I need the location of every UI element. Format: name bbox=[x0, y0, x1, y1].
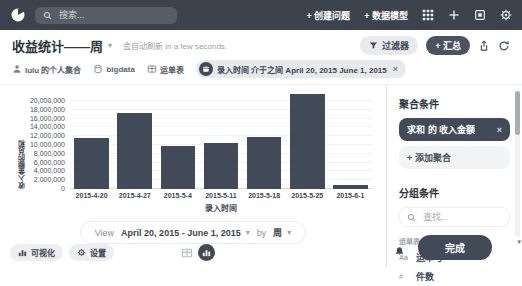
view-bar: View April 20, 2015 - June 1, 2015 ▾ by … bbox=[0, 221, 386, 244]
view-label: View bbox=[95, 228, 114, 238]
apps-grid-icon[interactable] bbox=[422, 9, 434, 21]
bar-rect bbox=[333, 185, 368, 189]
date-range-dropdown[interactable]: April 20, 2015 - June 1, 2015 ▾ bbox=[121, 228, 250, 238]
x-tick-label: 2015-5-11 bbox=[199, 192, 242, 199]
settings-button-label: 设置 bbox=[90, 247, 106, 258]
x-tick-label: 2015-4-27 bbox=[113, 192, 156, 199]
refresh-icon[interactable] bbox=[498, 40, 510, 52]
scrollbar-down-arrow[interactable]: ▾ bbox=[517, 238, 521, 245]
breadcrumb-database-label: bigdata bbox=[106, 65, 134, 74]
field-search[interactable] bbox=[399, 207, 510, 227]
y-tick-label: 12,000,000 bbox=[30, 132, 65, 139]
refresh-note: 会自动刷新 in a few seconds. bbox=[123, 40, 227, 51]
summarize-button[interactable]: + 汇总 bbox=[426, 36, 470, 55]
field-name: 件数 bbox=[416, 270, 434, 283]
settings-button[interactable]: 设置 bbox=[69, 244, 114, 261]
calendar-icon bbox=[199, 62, 213, 76]
breadcrumb-collection[interactable]: lulu 的个人集合 bbox=[12, 64, 81, 75]
chart-view-toggle[interactable] bbox=[198, 244, 215, 261]
bar[interactable] bbox=[113, 93, 156, 189]
create-question-button[interactable]: + 创建问题 bbox=[306, 9, 350, 22]
database-icon bbox=[93, 64, 103, 74]
global-search[interactable] bbox=[35, 7, 177, 24]
view-bar-inner: View April 20, 2015 - June 1, 2015 ▾ by … bbox=[80, 221, 306, 244]
bar[interactable] bbox=[243, 93, 286, 189]
y-tick-label: 8,000,000 bbox=[34, 150, 65, 157]
y-tick-label: 14,000,000 bbox=[30, 123, 65, 130]
bar-rect bbox=[290, 94, 325, 189]
data-model-button[interactable]: + 数据模型 bbox=[364, 9, 408, 22]
bar-rect bbox=[247, 137, 282, 189]
breadcrumb-table[interactable]: 运单表 bbox=[147, 64, 184, 75]
x-tick-label: 2015-5-18 bbox=[243, 192, 286, 199]
scrollbar-thumb[interactable] bbox=[515, 91, 520, 135]
aggregation-close-icon[interactable]: × bbox=[497, 125, 502, 135]
y-tick-label: 0 bbox=[61, 185, 65, 192]
funnel-icon bbox=[369, 41, 378, 50]
y-tick-label: 6,000,000 bbox=[34, 159, 65, 166]
bar[interactable] bbox=[70, 93, 113, 189]
y-axis-title: 收入金额的总和 bbox=[17, 93, 27, 189]
field-search-input[interactable] bbox=[421, 211, 502, 223]
title-chevron-down-icon[interactable]: ▾ bbox=[108, 42, 112, 50]
browse-icon[interactable] bbox=[474, 9, 486, 21]
date-filter-pill[interactable]: 录入时间 介于之间 April 20, 2015 June 1, 2015 × bbox=[196, 60, 406, 78]
content: 收入金额的总和 02,000,0004,000,0006,000,0008,00… bbox=[0, 85, 522, 268]
bar[interactable] bbox=[286, 93, 329, 189]
breadcrumb-table-label: 运单表 bbox=[160, 64, 184, 75]
x-tick-label: 2015-4-20 bbox=[70, 192, 113, 199]
gear-icon bbox=[77, 248, 86, 257]
sidebar-scrollbar bbox=[515, 91, 520, 237]
table-view-icon[interactable] bbox=[181, 247, 193, 259]
y-tick-label: 2,000,000 bbox=[34, 176, 65, 183]
summarize-sidebar: 聚合条件 求和 的 收入金额 × + 添加聚合 分组条件 运单表 Aa运单号#件… bbox=[386, 85, 522, 268]
granularity-value: 周 bbox=[273, 226, 282, 239]
aggregation-pill[interactable]: 求和 的 收入金额 × bbox=[399, 118, 510, 141]
bar-rect bbox=[117, 113, 152, 189]
bar-rect bbox=[204, 143, 239, 189]
bar[interactable] bbox=[199, 93, 242, 189]
done-button[interactable]: 完成 bbox=[418, 235, 492, 260]
x-tick-label: 2015-5-25 bbox=[286, 192, 329, 199]
filter-close-icon[interactable]: × bbox=[393, 64, 398, 74]
y-tick-label: 16,000,000 bbox=[30, 115, 65, 122]
visualization-button[interactable]: 可视化 bbox=[10, 244, 63, 261]
y-tick-label: 20,000,000 bbox=[30, 97, 65, 104]
breadcrumb-database[interactable]: bigdata bbox=[93, 64, 134, 74]
share-icon[interactable] bbox=[478, 40, 490, 52]
table-icon bbox=[147, 64, 157, 74]
bar[interactable] bbox=[329, 93, 372, 189]
x-axis-title: 录入时间 bbox=[70, 202, 372, 213]
x-tick-label: 2015-5-4 bbox=[156, 192, 199, 199]
page-header: 收益统计——周 ▾ 会自动刷新 in a few seconds. 过滤器 + … bbox=[0, 30, 522, 58]
bell-icon[interactable] bbox=[394, 246, 405, 257]
top-nav-actions: + 创建问题 + 数据模型 bbox=[306, 9, 512, 22]
plus-icon[interactable] bbox=[448, 9, 460, 21]
app-logo-icon[interactable] bbox=[10, 7, 26, 23]
top-nav: + 创建问题 + 数据模型 bbox=[0, 0, 522, 30]
chevron-down-icon: ▾ bbox=[246, 229, 250, 237]
person-icon bbox=[12, 64, 22, 74]
gear-icon[interactable] bbox=[500, 9, 512, 21]
date-range-value: April 20, 2015 - June 1, 2015 bbox=[121, 228, 241, 238]
bar[interactable] bbox=[156, 93, 199, 189]
x-labels: 2015-4-202015-4-272015-5-42015-5-112015-… bbox=[70, 192, 372, 199]
search-input[interactable] bbox=[57, 9, 169, 21]
filter-button[interactable]: 过滤器 bbox=[360, 36, 418, 55]
add-aggregation-button[interactable]: + 添加聚合 bbox=[399, 146, 510, 169]
search-icon bbox=[407, 213, 416, 222]
field-row[interactable]: #件数 bbox=[399, 267, 510, 286]
date-filter-label: 录入时间 介于之间 April 20, 2015 June 1, 2015 bbox=[217, 64, 387, 75]
x-tick-label: 2015-6-1 bbox=[329, 192, 372, 199]
field-type-icon: # bbox=[399, 273, 410, 280]
granularity-dropdown[interactable]: 周 ▾ bbox=[273, 226, 291, 239]
header-actions: 过滤器 + 汇总 bbox=[360, 36, 510, 55]
chart-panel: 收入金额的总和 02,000,0004,000,0006,000,0008,00… bbox=[0, 85, 386, 268]
visualization-button-label: 可视化 bbox=[31, 247, 55, 258]
display-toggle bbox=[181, 244, 215, 261]
bars bbox=[70, 93, 372, 189]
groupby-heading: 分组条件 bbox=[399, 185, 510, 200]
search-icon bbox=[43, 11, 52, 20]
bottom-bar: 可视化 设置 bbox=[10, 244, 386, 261]
